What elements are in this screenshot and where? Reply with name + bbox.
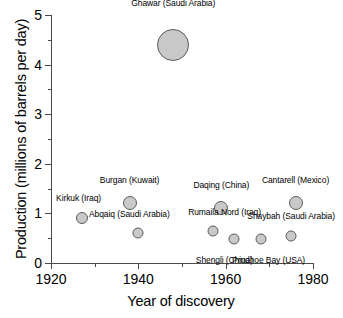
x-tick-major	[138, 263, 139, 269]
data-point-label: Cantarell (Mexico)	[262, 175, 329, 185]
x-tick-label: 1940	[123, 271, 154, 287]
data-point-label: Burgan (Kuwait)	[100, 175, 159, 185]
x-axis-title: Year of discovery	[46, 293, 316, 309]
y-tick-major	[45, 213, 51, 214]
x-tick-label: 1980	[297, 271, 328, 287]
y-tick-label: 5	[34, 7, 42, 23]
y-tick-label: 2	[34, 156, 42, 172]
data-point-bubble	[255, 234, 266, 245]
data-point-label: Prudhoe Bay (USA)	[232, 255, 305, 265]
y-tick-label: 0	[34, 255, 42, 271]
x-tick-major	[313, 263, 314, 269]
data-point-label: Ghawar (Saudi Arabia)	[131, 0, 215, 8]
y-tick-minor	[48, 238, 52, 239]
data-point-bubble	[133, 228, 144, 239]
x-tick-minor	[95, 263, 96, 267]
data-point-bubble	[207, 225, 218, 236]
y-tick-label: 3	[34, 106, 42, 122]
data-point-bubble	[229, 234, 240, 245]
y-tick-minor	[48, 40, 52, 41]
scatter-chart: Production (millions of barrels per day)…	[0, 0, 343, 318]
data-point-bubble	[157, 29, 189, 61]
y-axis-line	[51, 15, 52, 264]
y-tick-major	[45, 164, 51, 165]
data-point-bubble	[286, 230, 297, 241]
y-tick-minor	[48, 189, 52, 190]
y-tick-major	[45, 114, 51, 115]
data-point-label: Shaybah (Saudi Arabia)	[247, 211, 335, 221]
y-tick-major	[45, 15, 51, 16]
x-tick-minor	[182, 263, 183, 267]
y-axis-title: Production (millions of barrels per day)	[13, 14, 29, 264]
x-tick-label: 1960	[210, 271, 241, 287]
x-tick-label: 1920	[35, 271, 66, 287]
x-tick-major	[51, 263, 52, 269]
plot-area: 012345 1920194019601980 Ghawar (Saudi Ar…	[51, 15, 313, 263]
y-tick-label: 4	[34, 57, 42, 73]
y-tick-minor	[48, 139, 52, 140]
data-point-label: Kirkuk (Iraq)	[56, 193, 101, 203]
data-point-bubble	[289, 196, 303, 210]
data-point-label: Daqing (China)	[193, 180, 249, 190]
y-tick-minor	[48, 89, 52, 90]
data-point-label: Abqaiq (Saudi Arabia)	[89, 209, 170, 219]
y-tick-major	[45, 65, 51, 66]
y-tick-label: 1	[34, 205, 42, 221]
data-point-bubble	[76, 212, 88, 224]
